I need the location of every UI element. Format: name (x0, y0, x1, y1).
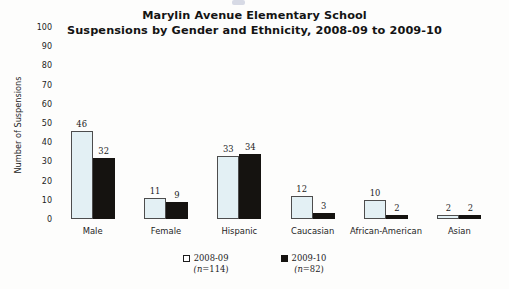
y-tick-label: 100 (0, 23, 58, 32)
x-tick-label: Male (83, 226, 103, 236)
y-tick-label: 80 (0, 61, 58, 70)
bar[interactable]: 9 (166, 202, 188, 219)
legend-swatch (281, 255, 288, 262)
chart-title-line-1: Marylin Avenue Elementary School (0, 8, 509, 23)
y-tick-label: 10 (0, 195, 58, 204)
bar-value-label: 3 (321, 201, 326, 211)
scan-artifact (232, 0, 245, 5)
bar[interactable]: 10 (364, 200, 386, 219)
plot-area: 4632119333412310222 (62, 27, 502, 219)
y-tick-label: 70 (0, 80, 58, 89)
bar-pair: 123 (291, 196, 335, 219)
bar-value-label: 34 (245, 142, 256, 152)
bar-value-label: 32 (98, 146, 109, 156)
y-tick-label: 90 (0, 42, 58, 51)
bar-value-label: 12 (296, 184, 307, 194)
y-tick-label: 60 (0, 99, 58, 108)
bar-pair: 3334 (217, 154, 261, 219)
bar-pair: 22 (437, 215, 481, 219)
legend-sample-size: (n=114) (194, 264, 229, 275)
legend-swatch (183, 255, 190, 262)
bar-value-label: 46 (76, 119, 87, 129)
bar[interactable]: 33 (217, 156, 239, 219)
y-tick-label: 30 (0, 157, 58, 166)
y-tick-label: 20 (0, 176, 58, 185)
x-axis-labels: MaleFemaleHispanicCaucasianAfrican-Ameri… (62, 226, 502, 240)
bar[interactable]: 11 (144, 198, 166, 219)
chart-figure: Marylin Avenue Elementary School Suspens… (0, 0, 509, 289)
legend-sample-size: (n=82) (292, 264, 327, 275)
x-tick-label: Caucasian (291, 226, 334, 236)
legend-item[interactable]: 2009-10(n=82) (281, 253, 327, 274)
bar-value-label: 9 (174, 190, 179, 200)
bar-group: 4632 (71, 27, 115, 219)
bar[interactable]: 34 (239, 154, 261, 219)
y-tick-label: 0 (0, 215, 58, 224)
bar-value-label: 2 (394, 203, 399, 213)
x-tick-label: African-American (350, 226, 422, 236)
x-tick-label: Hispanic (221, 226, 257, 236)
bar-value-label: 33 (223, 144, 234, 154)
bar-value-label: 11 (150, 186, 161, 196)
bar[interactable]: 2 (437, 215, 459, 219)
y-tick-label: 40 (0, 138, 58, 147)
bar-pair: 102 (364, 200, 408, 219)
bar-group: 102 (364, 27, 408, 219)
bar[interactable]: 2 (386, 215, 408, 219)
bar-value-label: 2 (468, 203, 473, 213)
bar[interactable]: 3 (313, 213, 335, 219)
y-axis-ticks: 1009080706050403020100 (0, 27, 58, 219)
bar-group: 123 (291, 27, 335, 219)
legend-label: 2009-10(n=82) (292, 253, 327, 274)
x-tick-label: Asian (448, 226, 471, 236)
x-tick-label: Female (151, 226, 181, 236)
bar-value-label: 2 (446, 203, 451, 213)
bar-group: 3334 (217, 27, 261, 219)
bar-value-label: 10 (370, 188, 381, 198)
bar[interactable]: 12 (291, 196, 313, 219)
bar[interactable]: 46 (71, 131, 93, 219)
y-tick-label: 50 (0, 119, 58, 128)
bar-group: 119 (144, 27, 188, 219)
legend-item[interactable]: 2008-09(n=114) (183, 253, 229, 274)
bar-pair: 4632 (71, 131, 115, 219)
bar-group: 22 (437, 27, 481, 219)
legend-label: 2008-09(n=114) (194, 253, 229, 274)
bar[interactable]: 32 (93, 158, 115, 219)
bar[interactable]: 2 (459, 215, 481, 219)
bar-pair: 119 (144, 198, 188, 219)
chart-legend: 2008-09(n=114)2009-10(n=82) (0, 253, 509, 274)
